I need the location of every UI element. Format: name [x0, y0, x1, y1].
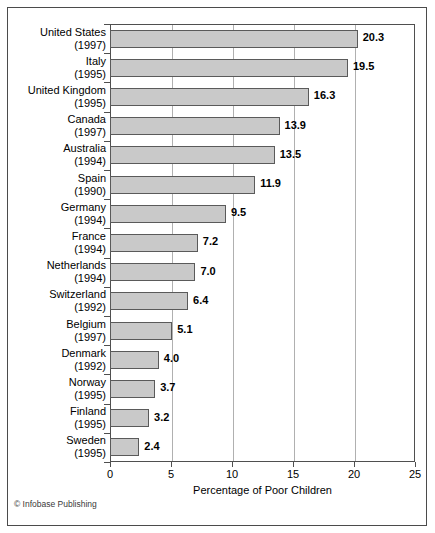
- bar-value-label: 5.1: [177, 320, 192, 338]
- category-label-denmark: Denmark(1992): [0, 347, 106, 373]
- category-label-canada: Canada(1997): [0, 113, 106, 139]
- bar: [110, 234, 198, 252]
- category-country: United Kingdom: [0, 84, 106, 97]
- bar-row: 4.0: [110, 345, 415, 374]
- category-year: (1994): [0, 155, 106, 168]
- bar-value-label: 20.3: [363, 28, 384, 46]
- bar-row: 20.3: [110, 24, 415, 53]
- x-axis-tick-label-5: 5: [168, 468, 174, 480]
- category-year: (1994): [0, 214, 106, 227]
- category-label-finland: Finland(1995): [0, 405, 106, 431]
- bar: [110, 380, 155, 398]
- category-year: (1995): [0, 418, 106, 431]
- x-axis-tick-label-10: 10: [226, 468, 238, 480]
- bar: [110, 409, 149, 427]
- category-year: (1995): [0, 447, 106, 460]
- category-year: (1997): [0, 39, 106, 52]
- bar-row: 9.5: [110, 199, 415, 228]
- bar-row: 3.2: [110, 404, 415, 433]
- bar: [110, 438, 139, 456]
- x-axis-title: Percentage of Poor Children: [110, 484, 415, 496]
- bar-value-label: 6.4: [193, 291, 208, 309]
- bar-value-label: 7.0: [200, 262, 215, 280]
- bar-row: 2.4: [110, 433, 415, 462]
- x-axis-tick-5: [171, 462, 172, 467]
- bar-row: 19.5: [110, 53, 415, 82]
- x-axis-tick-label-0: 0: [107, 468, 113, 480]
- category-country: United States: [0, 26, 106, 39]
- bar: [110, 263, 195, 281]
- bar-value-label: 3.7: [160, 378, 175, 396]
- bars-layer: 20.319.516.313.913.511.99.57.27.06.45.14…: [110, 24, 415, 462]
- category-label-united-kingdom: United Kingdom(1995): [0, 84, 106, 110]
- bar: [110, 351, 159, 369]
- bar-row: 7.0: [110, 258, 415, 287]
- bar-value-label: 3.2: [154, 408, 169, 426]
- credit-line: © Infobase Publishing: [14, 499, 97, 509]
- x-axis-tick-15: [293, 462, 294, 467]
- bar-row: 3.7: [110, 374, 415, 403]
- category-country: Australia: [0, 142, 106, 155]
- category-country: Netherlands: [0, 259, 106, 272]
- category-label-switzerland: Switzerland(1992): [0, 288, 106, 314]
- bar-value-label: 11.9: [260, 174, 281, 192]
- category-year: (1990): [0, 185, 106, 198]
- bar-row: 16.3: [110, 82, 415, 111]
- chart-figure: United States(1997)Italy(1995)United Kin…: [0, 0, 435, 533]
- bar-value-label: 9.5: [231, 203, 246, 221]
- x-axis-tick-label-25: 25: [409, 468, 421, 480]
- bar-row: 5.1: [110, 316, 415, 345]
- bar-value-label: 13.5: [280, 145, 301, 163]
- category-label-norway: Norway(1995): [0, 376, 106, 402]
- category-label-netherlands: Netherlands(1994): [0, 259, 106, 285]
- category-year: (1994): [0, 243, 106, 256]
- bar: [110, 146, 275, 164]
- bar: [110, 117, 280, 135]
- bar: [110, 292, 188, 310]
- bar: [110, 59, 348, 77]
- category-country: Germany: [0, 201, 106, 214]
- category-label-united-states: United States(1997): [0, 26, 106, 52]
- bar: [110, 30, 358, 48]
- category-year: (1994): [0, 272, 106, 285]
- bar-value-label: 4.0: [164, 349, 179, 367]
- x-axis-tick-0: [110, 462, 111, 467]
- x-axis-tick-10: [232, 462, 233, 467]
- category-year: (1997): [0, 331, 106, 344]
- category-label-spain: Spain(1990): [0, 172, 106, 198]
- category-country: Italy: [0, 55, 106, 68]
- category-label-italy: Italy(1995): [0, 55, 106, 81]
- category-country: Switzerland: [0, 288, 106, 301]
- bar-value-label: 7.2: [203, 232, 218, 250]
- category-year: (1992): [0, 360, 106, 373]
- bar: [110, 176, 255, 194]
- bar-row: 11.9: [110, 170, 415, 199]
- category-year: (1995): [0, 97, 106, 110]
- bar: [110, 322, 172, 340]
- category-country: Norway: [0, 376, 106, 389]
- x-axis-tick-label-15: 15: [287, 468, 299, 480]
- category-country: Sweden: [0, 434, 106, 447]
- category-axis-labels: United States(1997)Italy(1995)United Kin…: [0, 24, 106, 462]
- category-country: Denmark: [0, 347, 106, 360]
- category-label-belgium: Belgium(1997): [0, 318, 106, 344]
- bar: [110, 88, 309, 106]
- category-country: France: [0, 230, 106, 243]
- bar: [110, 205, 226, 223]
- bar-row: 6.4: [110, 287, 415, 316]
- x-axis-tick-20: [354, 462, 355, 467]
- bar-row: 13.5: [110, 141, 415, 170]
- category-year: (1992): [0, 301, 106, 314]
- bar-row: 7.2: [110, 228, 415, 257]
- bar-value-label: 13.9: [285, 116, 306, 134]
- category-label-sweden: Sweden(1995): [0, 434, 106, 460]
- category-country: Canada: [0, 113, 106, 126]
- category-label-france: France(1994): [0, 230, 106, 256]
- category-year: (1995): [0, 389, 106, 402]
- category-label-germany: Germany(1994): [0, 201, 106, 227]
- category-year: (1997): [0, 126, 106, 139]
- bar-value-label: 19.5: [353, 57, 374, 75]
- category-country: Belgium: [0, 318, 106, 331]
- category-label-australia: Australia(1994): [0, 142, 106, 168]
- bar-row: 13.9: [110, 112, 415, 141]
